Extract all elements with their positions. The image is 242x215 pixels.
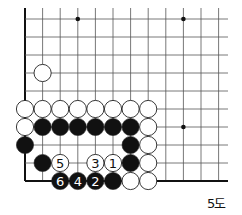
white-stone: [104, 100, 121, 117]
white-stone-move-3: 3: [87, 154, 104, 171]
white-stone-move-1: 1: [104, 154, 121, 171]
black-stone: [104, 172, 121, 189]
white-stone: [122, 172, 139, 189]
move-number: 2: [91, 174, 99, 189]
black-stone: [52, 118, 69, 135]
stones: 531642: [16, 64, 156, 189]
white-stone: [16, 118, 33, 135]
move-number: 6: [56, 174, 64, 189]
black-stone: [122, 118, 139, 135]
move-number: 5: [56, 156, 64, 171]
white-stone-move-5: 5: [52, 154, 69, 171]
go-board: 531642: [0, 0, 242, 215]
black-stone: [34, 154, 51, 171]
white-stone: [140, 154, 157, 171]
diagram-caption: 5도: [207, 193, 225, 212]
white-stone: [34, 100, 51, 117]
black-stone: [122, 136, 139, 153]
star-point-icon: [181, 125, 186, 130]
white-stone: [140, 136, 157, 153]
star-point-icon: [76, 17, 81, 22]
white-stone: [140, 118, 157, 135]
move-number: 1: [109, 156, 117, 171]
black-stone: [122, 154, 139, 171]
move-number: 3: [91, 156, 99, 171]
white-stone: [69, 100, 86, 117]
white-stone: [122, 100, 139, 117]
black-stone: [69, 118, 86, 135]
white-stone: [87, 100, 104, 117]
black-stone-move-4: 4: [69, 172, 86, 189]
black-stone: [87, 118, 104, 135]
black-stone-move-2: 2: [87, 172, 104, 189]
white-stone: [16, 100, 33, 117]
black-stone: [16, 136, 33, 153]
black-stone: [104, 118, 121, 135]
white-stone: [140, 100, 157, 117]
white-stone: [140, 172, 157, 189]
move-number: 4: [74, 174, 82, 189]
black-stone-move-6: 6: [52, 172, 69, 189]
white-stone: [52, 100, 69, 117]
black-stone: [34, 118, 51, 135]
star-point-icon: [181, 17, 186, 22]
white-stone: [34, 64, 51, 81]
